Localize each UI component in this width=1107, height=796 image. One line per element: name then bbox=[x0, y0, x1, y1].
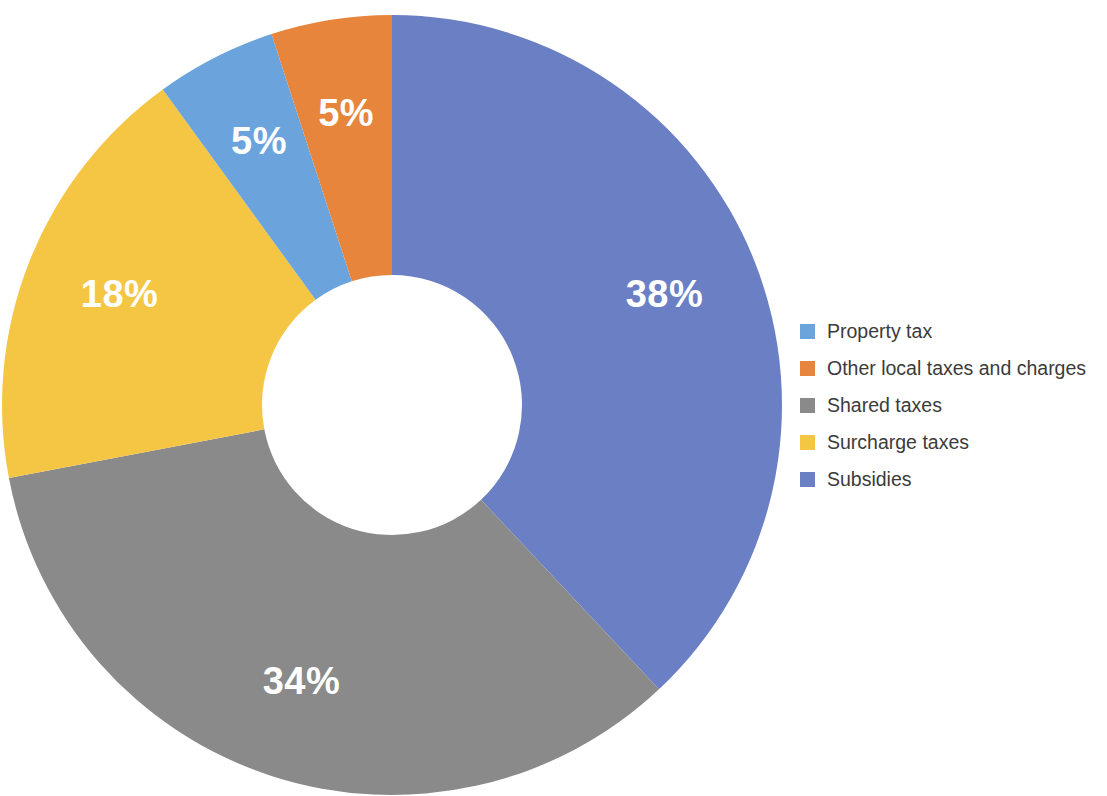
legend-swatch-icon bbox=[800, 398, 815, 413]
legend-item-label: Property tax bbox=[827, 322, 932, 342]
legend-item-label: Shared taxes bbox=[827, 396, 942, 416]
legend-item[interactable]: Shared taxes bbox=[800, 387, 1100, 424]
legend-swatch-icon bbox=[800, 324, 815, 339]
legend-item-label: Surcharge taxes bbox=[827, 433, 969, 453]
donut-slices bbox=[2, 15, 782, 795]
donut-chart-page: 38%34%18%5%5% Property taxOther local ta… bbox=[0, 0, 1107, 796]
legend-swatch-icon bbox=[800, 472, 815, 487]
chart-plot-area: 38%34%18%5%5% bbox=[0, 0, 800, 796]
slice-data-label: 34% bbox=[263, 660, 341, 702]
slice-data-label: 5% bbox=[231, 120, 287, 162]
legend-item-label: Subsidies bbox=[827, 470, 912, 490]
legend-item[interactable]: Surcharge taxes bbox=[800, 424, 1100, 461]
legend-item[interactable]: Other local taxes and charges bbox=[800, 350, 1100, 387]
slice-data-label: 18% bbox=[81, 273, 159, 315]
slice-data-label: 38% bbox=[626, 273, 704, 315]
legend-swatch-icon bbox=[800, 361, 815, 376]
chart-legend: Property taxOther local taxes and charge… bbox=[800, 313, 1100, 498]
legend-item[interactable]: Property tax bbox=[800, 313, 1100, 350]
legend-item-label: Other local taxes and charges bbox=[827, 359, 1086, 379]
slice-data-label: 5% bbox=[318, 92, 374, 134]
legend-swatch-icon bbox=[800, 435, 815, 450]
legend-item[interactable]: Subsidies bbox=[800, 461, 1100, 498]
donut-chart: 38%34%18%5%5% bbox=[0, 0, 800, 796]
